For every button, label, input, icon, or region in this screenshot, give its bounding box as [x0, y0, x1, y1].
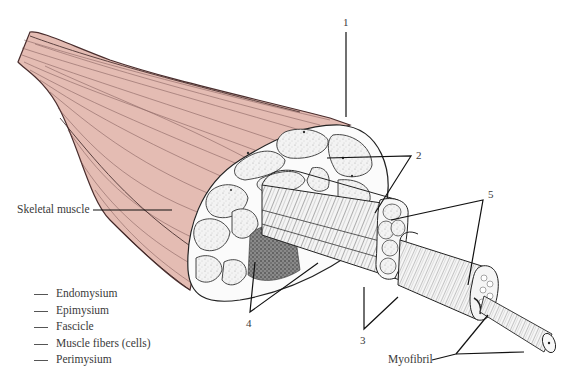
key-row-endomysium: Endomysium — [34, 287, 151, 304]
label-skeletal-muscle: Skeletal muscle — [17, 204, 90, 216]
answer-blank[interactable] — [34, 294, 48, 295]
key-row-fascicle: Fascicle — [34, 320, 151, 337]
key-term: Fascicle — [56, 320, 94, 332]
label-myofibril: Myofibril — [388, 354, 433, 366]
key-term: Perimysium — [56, 353, 112, 365]
answer-blank[interactable] — [34, 360, 48, 361]
callout-4: 4 — [246, 318, 252, 329]
key-term: Epimysium — [56, 304, 109, 316]
callout-3: 3 — [360, 335, 366, 346]
key-term: Muscle fibers (cells) — [56, 337, 151, 349]
callout-2: 2 — [416, 150, 422, 161]
answer-key: Endomysium Epimysium Fascicle Muscle fib… — [34, 287, 151, 370]
key-term: Endomysium — [56, 287, 117, 299]
callout-1: 1 — [343, 17, 349, 28]
muscle-diagram: Skeletal muscle Myofibril 1 2 3 4 5 Endo… — [0, 0, 573, 381]
answer-blank[interactable] — [34, 327, 48, 328]
key-row-muscle-fibers: Muscle fibers (cells) — [34, 337, 151, 354]
myofibril — [480, 296, 558, 354]
answer-blank[interactable] — [34, 311, 48, 312]
key-row-perimysium: Perimysium — [34, 353, 151, 370]
callout-5: 5 — [488, 189, 494, 200]
answer-blank[interactable] — [34, 344, 48, 345]
key-row-epimysium: Epimysium — [34, 304, 151, 321]
